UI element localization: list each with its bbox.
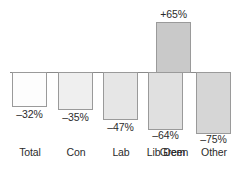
value-label-green: +65%: [146, 8, 201, 20]
category-axis: Total Con Lab Lib Dem Green Other: [0, 146, 237, 164]
bar-lib-dem: [148, 72, 183, 130]
bar-con: [58, 72, 93, 110]
bar-other: [196, 72, 231, 134]
bar-chart: –32% –35% –47% –64% +65% –75% Total Con …: [0, 0, 237, 169]
value-label-other: –75%: [186, 133, 237, 145]
bar-green: [156, 22, 191, 73]
plot-area: –32% –35% –47% –64% +65% –75%: [0, 0, 237, 140]
bar-lab: [103, 72, 138, 120]
category-label-other: Other: [186, 146, 237, 158]
bar-total: [12, 72, 47, 107]
value-label-lib-dem: –64%: [138, 129, 193, 141]
